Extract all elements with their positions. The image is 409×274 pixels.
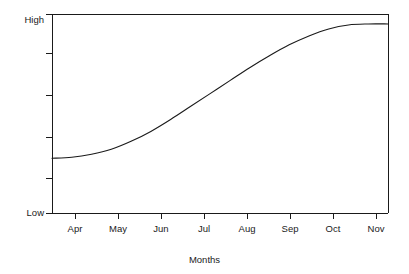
- growth-curve-chart: High Low Apr May Jun Jul Aug Sep Oct Nov…: [0, 0, 409, 274]
- y-axis-high-label: High: [2, 15, 44, 25]
- x-tick-label-sep: Sep: [270, 224, 310, 234]
- x-tick-label-aug: Aug: [227, 224, 267, 234]
- plot-frame-top-right: [52, 14, 388, 213]
- x-tick-label-apr: Apr: [55, 224, 95, 234]
- x-axis-title: Months: [0, 254, 409, 265]
- x-tick-label-nov: Nov: [356, 224, 396, 234]
- x-tick-label-oct: Oct: [313, 224, 353, 234]
- y-axis-ticks: [46, 15, 52, 214]
- growth-curve-line: [52, 24, 388, 158]
- y-axis-low-label: Low: [2, 208, 44, 218]
- x-tick-label-jun: Jun: [141, 224, 181, 234]
- x-tick-label-jul: Jul: [184, 224, 224, 234]
- x-tick-label-may: May: [98, 224, 138, 234]
